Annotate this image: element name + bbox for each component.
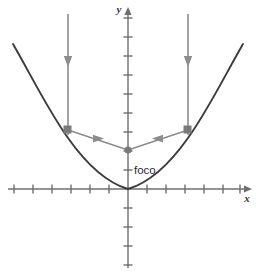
y-axis-label: y	[115, 3, 122, 15]
axes-group: x y	[8, 3, 252, 268]
focus-label: foco	[134, 164, 156, 176]
reflection-point-right-marker	[184, 126, 192, 134]
incoming-ray-left-arrowhead	[64, 56, 72, 67]
diagram-canvas: x y	[0, 0, 257, 275]
focus-point-marker	[124, 146, 131, 153]
x-axis-label: x	[243, 192, 250, 204]
y-axis-arrowhead	[124, 7, 131, 15]
parabola-focus-diagram: x y	[0, 0, 257, 275]
incoming-ray-right-arrowhead	[184, 56, 192, 67]
reflection-point-left-marker	[64, 126, 72, 134]
